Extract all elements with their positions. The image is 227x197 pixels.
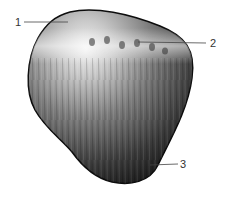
diagram-figure: [0, 0, 227, 197]
callout-label-3: 3: [180, 159, 186, 170]
callout-label-1: 1: [15, 17, 21, 28]
callout-label-2: 2: [210, 38, 216, 49]
illustration: [0, 0, 227, 197]
